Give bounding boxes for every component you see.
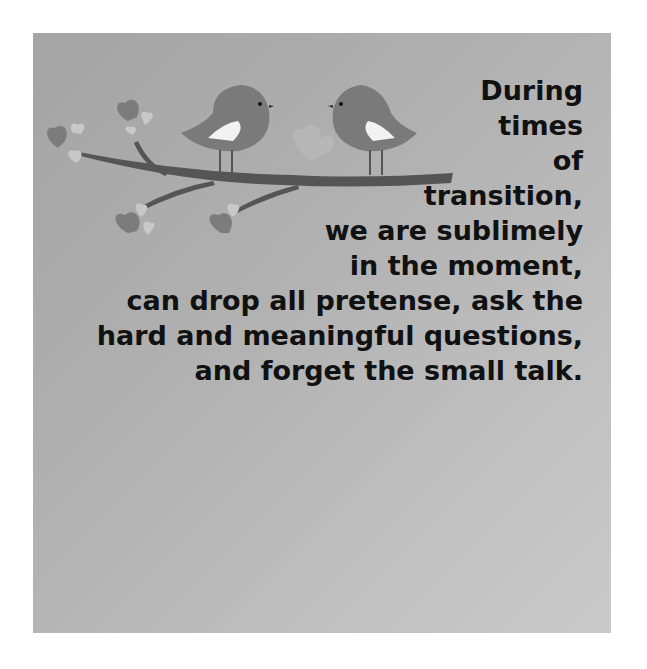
- quote-text: During times of transition, we are subli…: [23, 73, 583, 388]
- quote-line: and forget the small talk.: [23, 353, 583, 388]
- quote-line: in the moment,: [23, 248, 583, 283]
- quote-card: During times of transition, we are subli…: [33, 33, 611, 633]
- quote-line: can drop all pretense, ask the: [23, 283, 583, 318]
- quote-line: During: [23, 73, 583, 108]
- quote-line: transition,: [23, 178, 583, 213]
- quote-line: of: [23, 143, 583, 178]
- quote-line: we are sublimely: [23, 213, 583, 248]
- quote-line: times: [23, 108, 583, 143]
- quote-line: hard and meaningful questions,: [23, 318, 583, 353]
